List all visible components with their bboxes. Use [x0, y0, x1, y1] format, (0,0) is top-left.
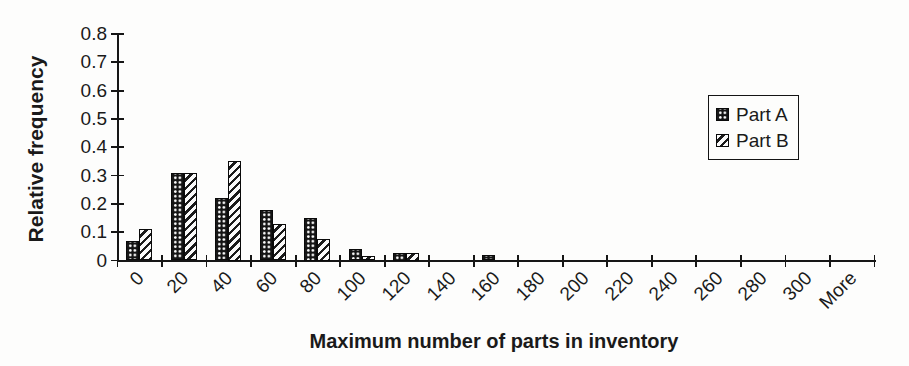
x-axis-tick — [829, 255, 831, 267]
y-axis-tick — [111, 203, 124, 205]
x-axis-tick — [785, 255, 787, 267]
x-axis-category-label: 160 — [467, 268, 503, 304]
x-axis-tick — [473, 255, 475, 267]
bar-part-b-bin-40 — [228, 161, 241, 260]
x-axis-tick — [339, 255, 341, 267]
x-axis-category-label: 180 — [512, 268, 548, 304]
y-axis-tick-label: 0.6 — [81, 80, 107, 102]
legend-item-part-a: Part A — [716, 105, 798, 125]
x-axis-category-label: 200 — [556, 268, 592, 304]
bar-part-a-bin-20 — [171, 173, 184, 261]
y-axis-tick-label: 0.3 — [81, 165, 107, 187]
y-axis-tick — [111, 231, 124, 233]
bar-part-b-bin-0 — [139, 229, 152, 260]
y-axis-title: Relative frequency — [23, 49, 49, 249]
bar-part-b-bin-80 — [317, 239, 330, 260]
x-axis-tick — [695, 255, 697, 267]
y-axis-tick — [111, 118, 124, 120]
bar-part-b-bin-20 — [184, 173, 197, 261]
bar-part-a-bin-100 — [349, 249, 362, 260]
x-axis-tick — [562, 255, 564, 267]
x-axis-tick — [740, 255, 742, 267]
legend-item-part-b: Part B — [716, 131, 798, 151]
x-axis-category-label: 40 — [208, 268, 236, 296]
x-axis-tick — [161, 255, 163, 267]
x-axis-category-label: 100 — [334, 268, 370, 304]
x-axis-category-label: 300 — [779, 268, 815, 304]
part-b-pattern-swatch-icon — [716, 134, 729, 147]
y-axis-tick-label: 0.4 — [81, 136, 107, 158]
bar-part-a-bin-120 — [393, 253, 406, 260]
x-axis-title: Maximum number of parts in inventory — [244, 330, 744, 353]
x-axis-tick — [874, 255, 876, 267]
y-axis-tick-label: 0.2 — [81, 193, 107, 215]
bar-part-a-bin-60 — [260, 210, 273, 261]
bar-part-b-bin-120 — [406, 253, 419, 260]
x-axis-category-label: 140 — [423, 268, 459, 304]
x-axis-category-label: More — [815, 268, 859, 312]
x-axis-category-label: 120 — [378, 268, 414, 304]
x-axis-category-label: 240 — [645, 268, 681, 304]
x-axis-tick — [206, 255, 208, 267]
bar-part-b-bin-60 — [273, 224, 286, 261]
x-axis-tick — [295, 255, 297, 267]
x-axis-tick — [117, 255, 119, 267]
x-axis-category-label: 260 — [690, 268, 726, 304]
bar-part-a-bin-80 — [304, 218, 317, 260]
x-axis-tick — [384, 255, 386, 267]
bar-part-a-bin-0 — [126, 241, 139, 261]
inventory-histogram-figure: Relative frequency Maximum number of par… — [0, 0, 909, 366]
y-axis-tick-label: 0.7 — [81, 51, 107, 73]
x-axis-category-label: 280 — [735, 268, 771, 304]
part-a-pattern-swatch-icon — [716, 108, 729, 121]
bar-part-a-bin-160 — [482, 255, 495, 261]
y-axis-tick — [111, 33, 124, 35]
x-axis-tick — [606, 255, 608, 267]
x-axis-tick — [517, 255, 519, 267]
x-axis-tick — [250, 255, 252, 267]
x-axis-category-label: 0 — [126, 268, 147, 289]
y-axis-tick — [111, 146, 124, 148]
x-axis-category-label: 220 — [601, 268, 637, 304]
legend-label-part-b: Part B — [736, 131, 789, 151]
bar-part-a-bin-40 — [215, 198, 228, 260]
y-axis-tick — [111, 175, 124, 177]
y-axis-tick — [111, 90, 124, 92]
x-axis-category-label: 60 — [252, 268, 280, 296]
bar-part-b-bin-100 — [362, 256, 375, 260]
legend-label-part-a: Part A — [736, 105, 788, 125]
x-axis-category-label: 20 — [163, 268, 191, 296]
legend: Part A Part B — [708, 95, 799, 160]
y-axis-tick-label: 0.1 — [81, 221, 107, 243]
x-axis-category-label: 80 — [297, 268, 325, 296]
y-axis-tick-label: 0.8 — [81, 23, 107, 45]
y-axis-tick-label: 0.5 — [81, 108, 107, 130]
x-axis-tick — [428, 255, 430, 267]
y-axis-tick-label: 0 — [96, 250, 107, 272]
x-axis-tick — [651, 255, 653, 267]
y-axis-tick — [111, 61, 124, 63]
